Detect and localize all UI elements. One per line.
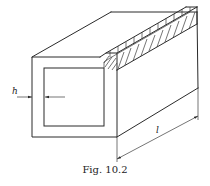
tube-diagram: h l (0, 0, 210, 186)
dimension-h: h (12, 86, 65, 97)
dimension-l: l (117, 88, 198, 162)
weld-seam (100, 7, 197, 70)
figure-caption: Fig. 10.2 (0, 164, 210, 175)
label-h: h (12, 86, 18, 96)
label-l: l (156, 125, 159, 135)
top-face (32, 12, 197, 57)
front-face (32, 57, 117, 137)
